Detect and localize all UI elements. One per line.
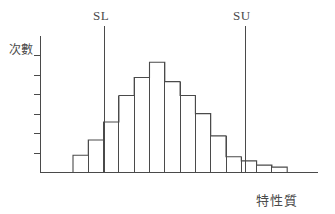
spec-lower-label: SL	[93, 9, 109, 22]
histogram-svg	[0, 0, 335, 214]
bars-group	[73, 62, 287, 172]
x-axis-label: 特性質	[256, 194, 298, 207]
spec-upper-label: SU	[233, 9, 251, 22]
histogram-figure: 次數 特性質 SL SU	[0, 0, 335, 214]
axes-group	[34, 36, 318, 173]
spec-limit-lines-group	[105, 26, 246, 172]
y-axis-label: 次數	[8, 44, 34, 57]
